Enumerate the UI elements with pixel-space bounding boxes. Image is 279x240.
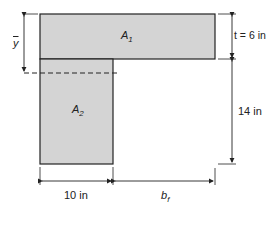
- web-width-label: 10 in: [64, 190, 88, 201]
- centroid-label: y: [13, 38, 19, 49]
- web-height-label: 14 in: [238, 106, 262, 117]
- area-a2-label: A2: [72, 104, 84, 118]
- flange-overhang-label: bf: [161, 190, 169, 204]
- area-a1-label: A1: [121, 30, 133, 44]
- flange-thickness-label: t = 6 in: [234, 30, 266, 41]
